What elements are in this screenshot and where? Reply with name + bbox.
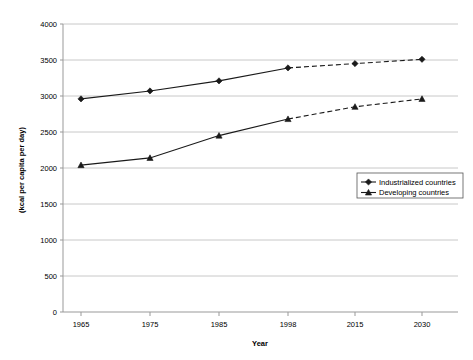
y-tick-label: 1500 bbox=[40, 200, 57, 209]
x-tick-label: 2030 bbox=[414, 320, 431, 329]
x-tick-label: 1975 bbox=[142, 320, 159, 329]
y-tick-label: 3000 bbox=[40, 92, 57, 101]
y-axis-title: (kcal per capita per day) bbox=[17, 127, 26, 213]
x-tick-label: 1998 bbox=[280, 320, 297, 329]
line-chart: 05001000150020002500300035004000 1965197… bbox=[0, 0, 473, 360]
y-tick-label: 1000 bbox=[40, 236, 57, 245]
legend-label-0: Industrialized countries bbox=[379, 178, 456, 187]
x-tick-label: 2015 bbox=[347, 320, 364, 329]
y-tick-label: 500 bbox=[44, 272, 57, 281]
x-tick-label: 1985 bbox=[211, 320, 228, 329]
y-tick-label: 4000 bbox=[40, 20, 57, 29]
y-tick-label: 0 bbox=[53, 308, 57, 317]
y-tick-label: 2000 bbox=[40, 164, 57, 173]
chart-container: 05001000150020002500300035004000 1965197… bbox=[0, 0, 473, 360]
legend: Industrialized countriesDeveloping count… bbox=[357, 173, 463, 198]
y-tick-label: 2500 bbox=[40, 128, 57, 137]
x-tick-label: 1965 bbox=[73, 320, 90, 329]
x-axis-title: Year bbox=[252, 339, 268, 348]
legend-label-1: Developing countries bbox=[379, 188, 449, 197]
y-tick-label: 3500 bbox=[40, 56, 57, 65]
